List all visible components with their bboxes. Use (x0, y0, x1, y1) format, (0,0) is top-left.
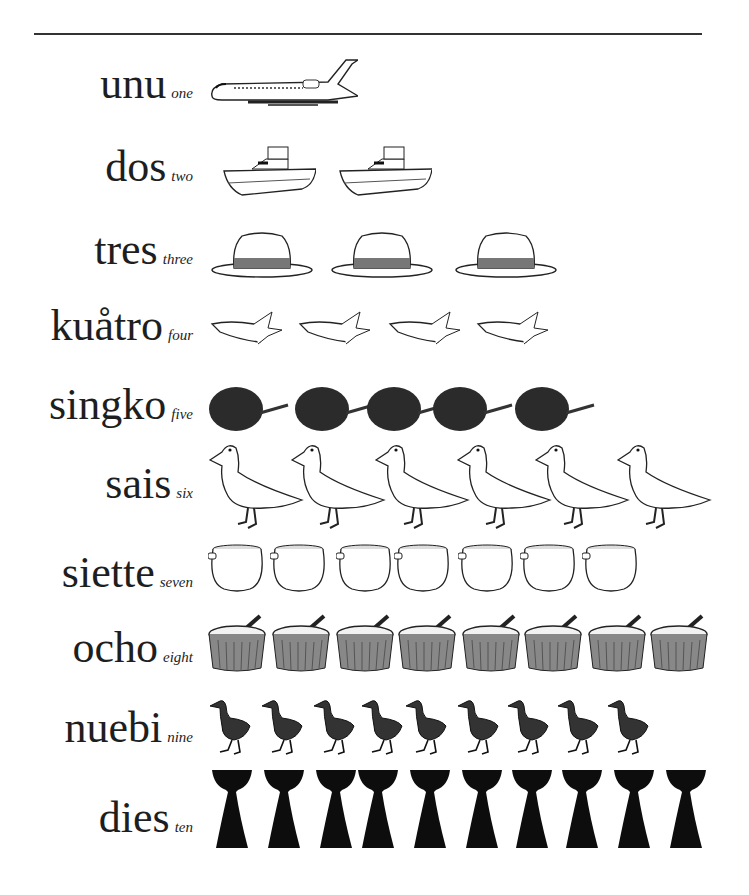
cooking-pot-icon (460, 612, 522, 674)
number-row-six: saissix (0, 438, 749, 530)
cooking-pot-icon (206, 612, 268, 674)
chamorro-word: dos (105, 142, 166, 191)
hat-icon (454, 228, 558, 278)
latte-stone-icon (358, 768, 398, 852)
english-word: six (176, 485, 193, 501)
latte-stone-icon (462, 768, 502, 852)
fruit-icon (294, 383, 376, 433)
clay-pot-icon (208, 543, 266, 593)
latte-stone-icon (512, 768, 552, 852)
hat-icon (210, 228, 314, 278)
chamorro-word: tres (94, 225, 158, 274)
bird-icon (362, 696, 406, 756)
cooking-pot-icon (522, 612, 584, 674)
english-word: seven (160, 574, 193, 590)
number-label: singkofive (49, 383, 193, 427)
fruit-icon (432, 383, 514, 433)
banana-icon (298, 310, 374, 346)
bird-icon (558, 696, 602, 756)
chamorro-word: siette (62, 548, 155, 597)
english-word: four (168, 327, 193, 343)
cooking-pot-icon (270, 612, 332, 674)
number-row-one: unuone (0, 52, 749, 112)
clay-pot-icon (336, 543, 394, 593)
number-label: sietteseven (62, 551, 193, 595)
english-word: nine (167, 729, 193, 745)
clay-pot-icon (270, 543, 328, 593)
page-heading-cutoff (34, 0, 354, 3)
bird-icon (608, 696, 652, 756)
number-label: kuåtrofour (51, 304, 193, 348)
english-word: two (171, 168, 193, 184)
boat-icon (338, 145, 432, 197)
cooking-pot-icon (586, 612, 648, 674)
number-row-three: tresthree (0, 225, 749, 280)
clay-pot-icon (458, 543, 516, 593)
number-label: ochoeight (72, 626, 193, 670)
bird-icon (262, 696, 306, 756)
duck-icon (290, 438, 386, 530)
chamorro-word: sais (105, 459, 171, 508)
airplane-icon (208, 56, 358, 112)
bird-icon (210, 696, 254, 756)
english-word: one (171, 85, 193, 101)
banana-icon (210, 310, 286, 346)
english-word: three (163, 251, 193, 267)
number-label: unuone (100, 62, 193, 106)
number-row-eight: ochoeight (0, 612, 749, 676)
latte-stone-icon (264, 768, 304, 852)
bird-icon (508, 696, 552, 756)
fruit-icon (208, 383, 290, 433)
cooking-pot-icon (648, 612, 710, 674)
fruit-icon (514, 383, 596, 433)
bird-icon (406, 696, 450, 756)
number-row-two: dostwo (0, 145, 749, 205)
english-word: five (171, 406, 193, 422)
number-label: nuebinine (64, 706, 193, 750)
chamorro-word: singko (49, 380, 166, 429)
bird-icon (458, 696, 502, 756)
latte-stone-icon (666, 768, 706, 852)
latte-stone-icon (562, 768, 602, 852)
number-row-five: singkofive (0, 375, 749, 435)
number-row-ten: diesten (0, 768, 749, 852)
clay-pot-icon (394, 543, 452, 593)
banana-icon (388, 310, 464, 346)
number-label: dostwo (105, 145, 193, 189)
chamorro-word: dies (99, 793, 170, 842)
chamorro-word: ocho (72, 623, 158, 672)
hat-icon (330, 228, 434, 278)
banana-icon (476, 310, 552, 346)
latte-stone-icon (212, 768, 252, 852)
header-rule (34, 33, 702, 35)
number-row-nine: nuebinine (0, 696, 749, 756)
latte-stone-icon (316, 768, 356, 852)
bird-icon (314, 696, 358, 756)
number-label: diesten (99, 796, 193, 840)
number-label: saissix (105, 462, 193, 506)
chamorro-word: kuåtro (51, 301, 163, 350)
boat-icon (222, 145, 316, 197)
number-label: tresthree (94, 228, 193, 272)
clay-pot-icon (520, 543, 578, 593)
english-word: ten (175, 819, 193, 835)
chamorro-word: unu (100, 59, 166, 108)
latte-stone-icon (410, 768, 450, 852)
cooking-pot-icon (396, 612, 458, 674)
clay-pot-icon (582, 543, 640, 593)
duck-icon (616, 438, 712, 530)
number-row-four: kuåtrofour (0, 302, 749, 352)
number-row-seven: sietteseven (0, 538, 749, 593)
latte-stone-icon (614, 768, 654, 852)
cooking-pot-icon (334, 612, 396, 674)
chamorro-word: nuebi (64, 703, 162, 752)
english-word: eight (163, 649, 193, 665)
